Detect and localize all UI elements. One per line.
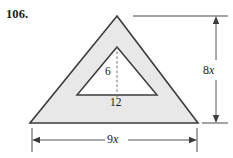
height-dimension-label: 8x bbox=[203, 63, 214, 78]
figure-container: 106. bbox=[0, 0, 233, 158]
width-dimension-variable: x bbox=[113, 132, 118, 146]
inner-triangle-base-label: 12 bbox=[110, 96, 122, 108]
width-dimension-label: 9x bbox=[107, 132, 118, 147]
height-arrow-down-icon bbox=[213, 115, 219, 123]
width-arrow-right-icon bbox=[189, 137, 197, 143]
inner-triangle-height-label: 6 bbox=[105, 65, 111, 77]
height-arrow-up-icon bbox=[213, 16, 219, 24]
height-dimension-variable: x bbox=[209, 63, 214, 77]
width-arrow-left-icon bbox=[32, 137, 40, 143]
